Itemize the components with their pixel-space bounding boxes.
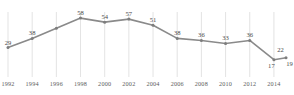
data-point-marker (285, 56, 288, 59)
data-point-marker (272, 58, 275, 61)
data-point-marker (176, 37, 179, 40)
data-point-marker (55, 27, 58, 30)
data-point-marker (31, 37, 34, 40)
chart-plot-area (0, 0, 294, 95)
data-point-marker (224, 42, 227, 45)
data-line (8, 18, 286, 60)
data-point-marker (127, 18, 130, 21)
data-point-marker (7, 46, 10, 49)
data-point-marker (248, 39, 251, 42)
data-point-marker (152, 24, 155, 27)
data-point-marker (200, 39, 203, 42)
series-line (8, 18, 286, 60)
data-point-marker (79, 17, 82, 20)
line-chart: 1992199419961998200020022004200620082010… (0, 0, 294, 95)
data-point-marker (103, 21, 106, 24)
